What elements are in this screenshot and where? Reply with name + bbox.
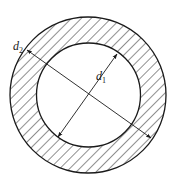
d2-label: d2 [13,39,23,55]
inner-circle [37,43,141,147]
annulus-diagram: d2 d1 [0,0,176,179]
